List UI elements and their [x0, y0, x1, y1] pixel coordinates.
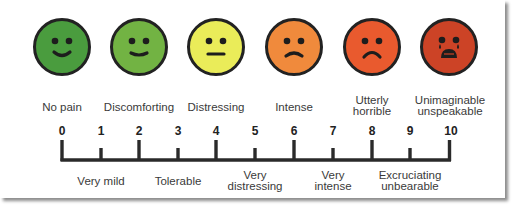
label-line: intense — [314, 181, 351, 192]
label-very-distressing: Very distressing — [228, 170, 283, 192]
label-line: unbearable — [379, 181, 442, 192]
label-excruciating-unbearable: Excruciating unbearable — [379, 170, 442, 192]
label-very-intense: Very intense — [314, 170, 351, 192]
label-line: distressing — [228, 181, 283, 192]
label-very-mild: Very mild — [77, 176, 124, 187]
label-tolerable: Tolerable — [155, 176, 202, 187]
pain-scale-card: No pain Discomforting Distressing Intens… — [0, 0, 505, 198]
